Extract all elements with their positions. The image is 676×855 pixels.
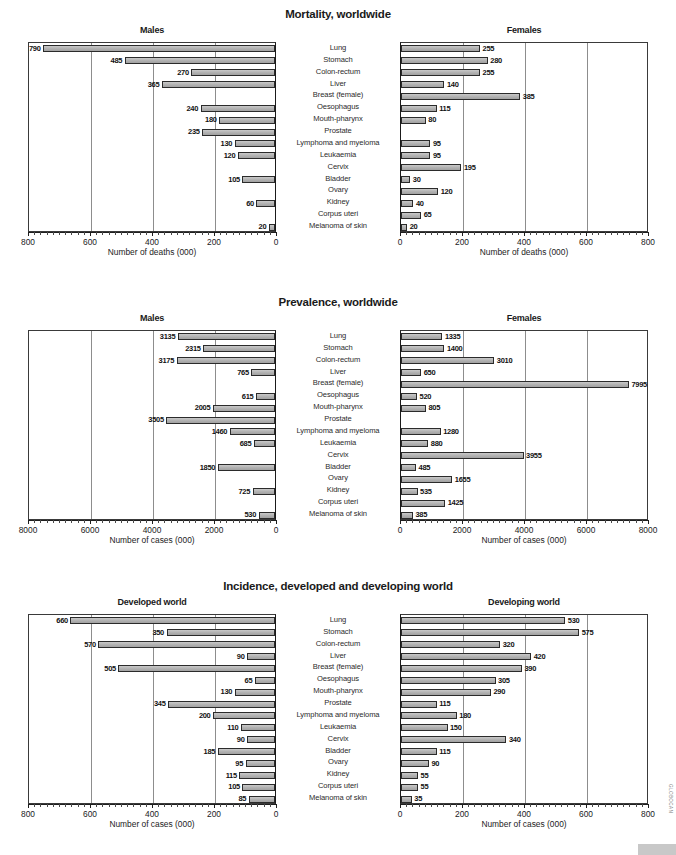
axis-tick-minor	[518, 232, 519, 235]
bar	[401, 641, 500, 648]
axis-tick-minor	[406, 804, 407, 807]
category-label: Mouth-pharynx	[276, 115, 400, 123]
bar	[401, 45, 480, 52]
bar-value-label: 520	[420, 393, 432, 401]
axis-tick-minor	[40, 232, 41, 235]
axis-tick	[462, 520, 463, 524]
bar-row: 200	[29, 710, 275, 722]
bar-row: 685	[29, 438, 275, 450]
bar-row: 1335	[401, 331, 647, 343]
axis-tick-label: 200	[207, 809, 221, 819]
plot-row: 6603505709050565130345200110901859511510…	[0, 614, 676, 804]
bar	[401, 393, 417, 400]
bar	[168, 701, 275, 708]
axis-tick-minor	[171, 804, 172, 807]
chart-panel-1: Mortality, worldwideMalesFemales79048527…	[0, 8, 676, 258]
axis-tick	[90, 520, 91, 524]
axis-tick-label: 8000	[19, 525, 38, 535]
axis-tick-minor	[580, 232, 581, 235]
bar-value-label: 40	[416, 200, 424, 208]
axis-tick-label: 0	[274, 525, 279, 535]
bar-value-label: 115	[439, 700, 450, 708]
axis-tick-minor	[133, 804, 134, 807]
axis-tick-minor	[598, 804, 599, 807]
axis-tick-minor	[34, 804, 35, 807]
category-label: Leukaemia	[276, 151, 400, 159]
axis-tick-minor	[251, 520, 252, 523]
axis-tick-label: 4000	[515, 525, 534, 535]
bar-row	[29, 162, 275, 174]
axis-row: 80006000400020000Number of cases (000)02…	[0, 520, 676, 546]
bar-row: 650	[401, 367, 647, 379]
bar-row: 255	[401, 67, 647, 79]
bar	[246, 760, 275, 767]
bar-value-label: 255	[483, 69, 495, 77]
bar-row: 40	[401, 197, 647, 209]
axis-tick-minor	[536, 520, 537, 523]
bar-row: 60	[29, 197, 275, 209]
axis-tick-minor	[133, 520, 134, 523]
axis-tick-minor	[121, 520, 122, 523]
axis-tick-minor	[115, 520, 116, 523]
bar-value-label: 1850	[200, 464, 216, 472]
axis-tick-minor	[102, 520, 103, 523]
bar-row: 1850	[29, 462, 275, 474]
axis-tick-minor	[456, 804, 457, 807]
axis-tick-minor	[208, 232, 209, 235]
axis-tick	[214, 804, 215, 808]
axis-tick-minor	[617, 804, 618, 807]
category-label: Corpus uteri	[276, 210, 400, 218]
axis-tick-minor	[140, 520, 141, 523]
figure-corner-code: GLOBOCAN	[668, 784, 673, 813]
right-series-label: Females	[400, 25, 648, 35]
axis-tick-label: 400	[145, 809, 159, 819]
category-label: Breast (female)	[276, 663, 400, 671]
bar-row: 1655	[401, 474, 647, 486]
bar	[202, 129, 275, 136]
bar	[401, 212, 421, 219]
axis-tick-minor	[412, 804, 413, 807]
axis-tick	[28, 804, 29, 808]
axis-tick-minor	[505, 232, 506, 235]
axis-tick-minor	[574, 520, 575, 523]
right-series-label: Females	[400, 313, 648, 323]
axis-tick-minor	[450, 804, 451, 807]
axis-tick-minor	[146, 804, 147, 807]
axis-tick-label: 200	[455, 809, 469, 819]
axis-tick-minor	[171, 232, 172, 235]
bar	[401, 464, 416, 471]
category-label: Colon-rectum	[276, 640, 400, 648]
axis-tick-minor	[468, 804, 469, 807]
axis-tick-label: 600	[83, 809, 97, 819]
bar-value-label: 20	[259, 223, 267, 231]
axis-tick-minor	[474, 232, 475, 235]
bar-value-label: 485	[111, 57, 123, 65]
category-label: Stomach	[276, 56, 400, 64]
bar-row: 570	[29, 639, 275, 651]
bar	[401, 81, 444, 88]
bar	[401, 677, 496, 684]
axis-tick-minor	[505, 520, 506, 523]
axis-tick-label: 600	[83, 237, 97, 247]
bar-value-label: 180	[205, 116, 217, 124]
bar	[235, 140, 275, 147]
axis-tick-minor	[481, 520, 482, 523]
bar-row: 115	[29, 769, 275, 781]
axis-tick-minor	[264, 232, 265, 235]
axis-tick	[214, 520, 215, 524]
axis-tick-label: 0	[274, 237, 279, 247]
bar	[401, 345, 444, 352]
bar-value-label: 65	[245, 677, 253, 685]
axis-tick-minor	[251, 804, 252, 807]
category-label-column: LungStomachColon-rectumLiverBreast (fema…	[276, 42, 400, 232]
bar-row: 30	[401, 174, 647, 186]
axis-tick-minor	[598, 520, 599, 523]
axis-tick-minor	[468, 232, 469, 235]
axis-tick-minor	[202, 520, 203, 523]
axis-tick-minor	[611, 520, 612, 523]
bar	[401, 512, 413, 519]
axis-tick-minor	[505, 804, 506, 807]
axis-tick-minor	[580, 804, 581, 807]
bar-row: 390	[401, 663, 647, 675]
bar-value-label: 120	[441, 188, 453, 196]
